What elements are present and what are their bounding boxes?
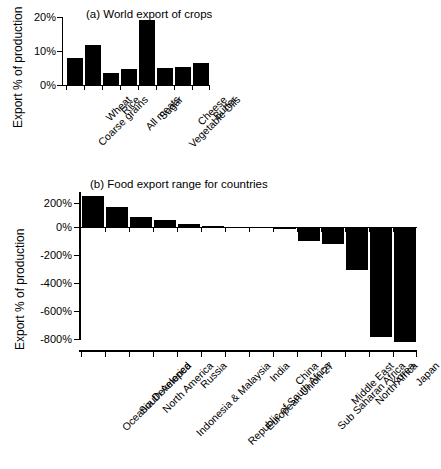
- panel-b-xtick-7: [249, 352, 250, 357]
- panel-a-bar-all-meats: [121, 69, 137, 85]
- panel-b-ytick-mark-m800: [74, 339, 79, 340]
- panel-a-bar-wheat: [85, 45, 101, 85]
- panel-a-xtick-8: [209, 86, 210, 90]
- panel-a-ytick-label-20: 20%: [24, 12, 56, 23]
- panel-b-zero-tick-12: [369, 228, 370, 232]
- panel-a-bar-sugar: [139, 20, 155, 85]
- panel-b-bar-indonesia-malaysia: [154, 220, 176, 227]
- panel-b-bar-japan: [394, 227, 416, 342]
- panel-a-bar-coarse-grains: [67, 58, 83, 85]
- panel-b-ytick-mark-m200: [74, 255, 79, 256]
- panel-b-xtick-5: [201, 352, 202, 357]
- panel-b-xtick-12: [369, 352, 370, 357]
- panel-b-xtick-14: [416, 352, 417, 357]
- panel-b-zero-tick-6: [225, 228, 226, 232]
- panel-a-bar-butter: [193, 63, 209, 85]
- panel-b-ytick-label-200: 200%: [26, 198, 72, 209]
- panel-b-xtick-0: [81, 352, 82, 357]
- panel-a-xtick-5: [156, 86, 157, 90]
- panel-a-bar-vegetable-oils: [157, 68, 173, 85]
- panel-b-bar-north-america: [130, 217, 152, 227]
- panel-b-zero-tick-7: [249, 228, 250, 232]
- panel-a-xtick-1: [84, 86, 85, 90]
- panel-b-ytick-mark-200: [74, 203, 79, 204]
- panel-b-bar-korea: [370, 227, 392, 337]
- panel-b-bar-oceania-developed: [82, 196, 104, 227]
- panel-b-xcat-india: India: [268, 360, 292, 384]
- panel-b-bar-middle-east: [322, 227, 344, 244]
- panel-a-ytick-label-10: 10%: [24, 46, 56, 57]
- panel-b-bar-republic-of-south-africa: [202, 226, 224, 227]
- panel-b-xtick-10: [321, 352, 322, 357]
- panel-b-bar-china: [274, 227, 296, 229]
- panel-b-xtick-6: [225, 352, 226, 357]
- panel-b-ytick-mark-m400: [74, 283, 79, 284]
- panel-b-zero-tick-2: [129, 228, 130, 232]
- panel-a-y-axis: [62, 17, 63, 86]
- panel-a-y-axis-label: Export % of production: [12, 7, 24, 128]
- panel-a-xcat-sugar: Sugar: [157, 94, 185, 122]
- panel-b-zero-tick-9: [297, 228, 298, 232]
- panel-b-zero-tick-10: [321, 228, 322, 232]
- panel-b-ytick-label-m400: -400%: [22, 278, 72, 289]
- panel-a-bar-rice: [103, 73, 119, 85]
- panel-b-ytick-label-m800: -800%: [22, 334, 72, 345]
- panel-b-zero-tick-8: [273, 228, 274, 232]
- panel-a-xtick-6: [174, 86, 175, 90]
- panel-b-zero-tick-5: [201, 228, 202, 232]
- panel-a-title: (a) World export of crops: [86, 8, 212, 20]
- panel-b-xtick-4: [177, 352, 178, 357]
- panel-a-ytick-mark-10: [57, 51, 62, 52]
- panel-a-xtick-0: [66, 86, 67, 90]
- panel-b-xtick-3: [153, 352, 154, 357]
- panel-b-xtick-11: [345, 352, 346, 357]
- panel-b-xtick-13: [393, 352, 394, 357]
- panel-b-xtick-9: [297, 352, 298, 357]
- panel-b-zero-tick-3: [153, 228, 154, 232]
- panel-b-zero-tick-11: [345, 228, 346, 232]
- panel-b-ytick-label-0: 0%: [26, 222, 72, 233]
- panel-a: Export % of production (a) World export …: [0, 0, 426, 160]
- panel-b: Export % of production (b) Food export r…: [0, 170, 426, 469]
- panel-a-xtick-3: [120, 86, 121, 90]
- panel-a-ytick-mark-20: [57, 17, 62, 18]
- panel-b-ytick-mark-m600: [74, 311, 79, 312]
- panel-a-xtick-4: [138, 86, 139, 90]
- panel-a-ytick-label-0: 0%: [24, 80, 56, 91]
- panel-a-bar-cheese: [175, 67, 191, 85]
- panel-b-zero-tick-1: [105, 228, 106, 232]
- panel-b-bar-south-america: [106, 207, 128, 227]
- panel-b-bar-sub-saharan-africa: [298, 227, 320, 241]
- panel-b-ytick-label-m600: -600%: [22, 306, 72, 317]
- panel-b-ytick-label-m200: -200%: [22, 250, 72, 261]
- panel-b-bar-north-africa: [346, 227, 368, 270]
- panel-b-bar-india: [250, 227, 272, 228]
- panel-b-y-axis-label: Export % of production: [14, 229, 26, 350]
- panel-a-xtick-7: [192, 86, 193, 90]
- panel-b-zero-tick-4: [177, 228, 178, 232]
- panel-b-zero-tick-13: [393, 228, 394, 232]
- panel-b-y-axis: [79, 192, 81, 340]
- panel-b-xtick-2: [129, 352, 130, 357]
- panel-b-xtick-1: [105, 352, 106, 357]
- panel-b-title: (b) Food export range for countries: [90, 178, 268, 190]
- panel-b-bar-european-union-27: [226, 227, 248, 228]
- panel-b-xcat-japan: Japan: [413, 360, 441, 388]
- panel-b-xtick-8: [273, 352, 274, 357]
- panel-b-bar-russia: [178, 224, 200, 227]
- panel-a-xtick-2: [102, 86, 103, 90]
